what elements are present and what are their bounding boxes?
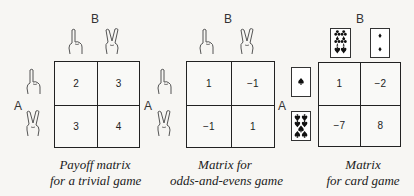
matrix-cell: −2 [360, 63, 401, 105]
two-fingers-icon [155, 110, 175, 138]
player-b-label: B [224, 12, 232, 26]
two-fingers-icon [24, 110, 44, 138]
player-a-label: A [278, 99, 286, 113]
two-fingers-icon [238, 28, 258, 56]
player-b-label: B [91, 12, 99, 26]
one-finger-icon [197, 28, 217, 56]
caption: Matrix for odds-and-evens game [170, 157, 280, 189]
payoff-matrix: 1 −2 −7 8 [318, 62, 401, 147]
ace-of-spades-card-icon [291, 67, 311, 97]
matrix-cell: 3 [55, 105, 97, 148]
matrix-cell: 8 [360, 105, 401, 147]
matrix-cell: −1 [231, 62, 275, 105]
caption-line-1: Matrix [318, 157, 408, 173]
matrix-cell: 4 [97, 105, 139, 148]
two-fingers-icon [103, 28, 123, 56]
player-a-label: A [14, 99, 22, 113]
one-finger-icon [24, 68, 44, 96]
one-finger-icon [66, 28, 86, 56]
matrix-cell: 1 [319, 63, 360, 105]
one-finger-icon [155, 68, 175, 96]
payoff-matrix: 1 −1 −1 1 [186, 61, 275, 148]
two-of-diamonds-card-icon [370, 28, 390, 58]
player-b-label: B [356, 12, 364, 26]
matrix-cell: −7 [319, 105, 360, 147]
caption: Payoff matrix for a trivial game [50, 157, 140, 189]
payoff-matrix: 2 3 3 4 [54, 61, 140, 148]
matrix-cell: 3 [97, 62, 139, 105]
matrix-cell: −1 [187, 105, 231, 148]
caption-line-1: Payoff matrix [50, 157, 140, 173]
caption-line-2: odds-and-evens game [170, 173, 280, 189]
caption-line-1: Matrix for [170, 157, 280, 173]
caption-line-2: for card game [318, 173, 408, 189]
seven-of-spades-card-icon [291, 111, 311, 141]
panel-odds-evens-game: B A 1 −1 −1 1 Matrix for odds-and-evens … [135, 0, 275, 196]
panel-card-game: B A 1 −2 −7 8 Matrix for card game [274, 0, 414, 196]
matrix-cell: 1 [231, 105, 275, 148]
caption-line-2: for a trivial game [50, 173, 140, 189]
six-of-clubs-card-icon [330, 28, 351, 58]
panel-trivial-game: B A 2 3 3 4 Payoff matrix for a trivial … [0, 0, 140, 196]
matrix-cell: 1 [187, 62, 231, 105]
player-a-label: A [144, 99, 152, 113]
matrix-cell: 2 [55, 62, 97, 105]
caption: Matrix for card game [318, 157, 408, 189]
